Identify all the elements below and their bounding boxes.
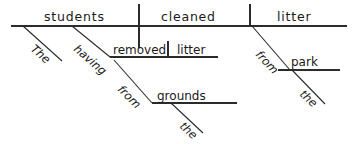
word-removed: removed xyxy=(113,43,166,57)
diagram-canvas: students cleaned litter The having remov… xyxy=(0,0,358,144)
word-the-park: the xyxy=(297,87,320,110)
word-subject: students xyxy=(44,9,105,24)
word-the-subject: The xyxy=(28,42,53,67)
word-the-grounds: the xyxy=(177,119,200,142)
word-grounds: grounds xyxy=(157,89,206,103)
word-from-participle: from xyxy=(115,82,144,111)
sentence-diagram: students cleaned litter The having remov… xyxy=(0,0,358,144)
word-from-verb: from xyxy=(253,47,282,76)
word-park: park xyxy=(291,55,318,69)
word-having: having xyxy=(71,42,110,78)
word-verb: cleaned xyxy=(161,9,216,24)
word-direct-object: litter xyxy=(277,9,311,24)
word-participle-object: litter xyxy=(177,43,205,57)
